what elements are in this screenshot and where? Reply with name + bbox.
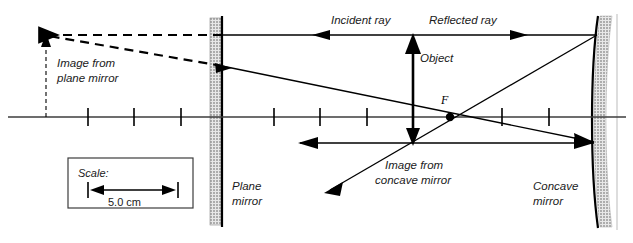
plane-mirror-label-line2: mirror <box>232 195 263 207</box>
virtual-image-arrowhead <box>41 33 51 47</box>
bottom-horizontal-ray <box>298 137 594 149</box>
concave-mirror-label-line1: Concave <box>533 180 578 192</box>
reflected-ray-label: Reflected ray <box>429 14 498 26</box>
ray-diagram-container: F Image from plane mirror Incident ray R… <box>0 0 633 243</box>
image-arrow-concave <box>406 117 420 146</box>
ray-plane-to-concave <box>215 63 594 146</box>
focal-point-label: F <box>440 93 449 107</box>
oblique-ray-arrowhead-left <box>215 63 232 73</box>
image-plane-mirror-label-line1: Image from <box>57 57 116 69</box>
ray-through-focus <box>324 35 597 196</box>
focal-point-dot <box>446 113 454 121</box>
top-horizontal-ray <box>222 30 597 40</box>
virtual-image-plane-mirror <box>41 33 51 117</box>
concave-mirror-backing <box>594 16 612 227</box>
bottom-ray-arrowhead-left <box>298 137 318 149</box>
object-arrowhead <box>405 33 421 54</box>
scale-value: 5.0 cm <box>108 196 141 208</box>
concave-mirror-label-line2: mirror <box>533 195 564 207</box>
image-plane-mirror-label-line2: plane mirror <box>56 72 120 84</box>
scale-caption: Scale: <box>78 167 109 179</box>
concave-mirror <box>592 14 617 230</box>
plane-mirror-backing <box>210 18 221 225</box>
optical-axis-group <box>8 108 626 126</box>
incident-ray-arrowhead <box>312 30 330 40</box>
scale-box: Scale: 5.0 cm <box>68 158 193 208</box>
object-label: Object <box>420 52 454 64</box>
image-concave-label-line1: Image from <box>385 159 444 171</box>
image-concave-label-line2: concave mirror <box>375 174 452 186</box>
optics-ray-diagram: F Image from plane mirror Incident ray R… <box>0 0 633 243</box>
reflected-ray-arrowhead <box>510 30 528 40</box>
plane-mirror-label-line1: Plane <box>232 180 261 192</box>
plane-mirror <box>210 16 222 227</box>
focus-ray-arrowhead <box>324 182 343 196</box>
focus-ray-line <box>330 35 597 190</box>
incident-ray-label: Incident ray <box>331 14 392 26</box>
